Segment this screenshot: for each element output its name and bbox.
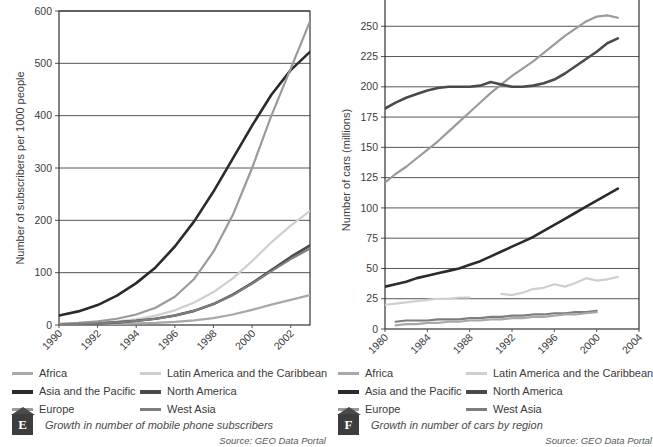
y-tick-label: 100 <box>360 202 378 214</box>
caption-e: E Growth in number of mobile phone subsc… <box>12 409 326 443</box>
series-line-africa <box>396 312 597 325</box>
series-line-asia-and-the-pacific <box>385 189 618 287</box>
legend-item[interactable]: Africa <box>12 366 140 381</box>
series-line-asia-and-the-pacific <box>59 52 310 316</box>
chart-e-y-axis-label: Number of subscribers per 1000 people <box>14 71 26 264</box>
legend-label: North America <box>167 385 237 398</box>
legend-color-swatch <box>466 372 487 375</box>
legend-item[interactable]: Asia and the Pacific <box>12 384 140 399</box>
x-tick-label: 1994 <box>117 327 142 352</box>
y-tick-label: 0 <box>372 323 378 335</box>
caption-f: F Growth in number of cars by region Sou… <box>338 409 652 443</box>
legend-label: Africa <box>365 367 393 380</box>
chart-e-plot: 0100200300400500600199019921994199619982… <box>0 0 326 360</box>
y-tick-label: 275 <box>360 0 378 2</box>
figure-f: 0255075100125150175200225250275198019841… <box>326 0 652 447</box>
y-tick-label: 75 <box>366 232 378 244</box>
legend-label: Africa <box>39 367 67 380</box>
x-tick-label: 1988 <box>450 331 475 356</box>
x-tick-label: 1980 <box>365 331 390 356</box>
legend-color-swatch <box>338 372 359 375</box>
chart-e-svg: 0100200300400500600199019921994199619982… <box>0 0 326 360</box>
legend-color-swatch <box>140 390 161 394</box>
source-text-f: Source: GEO Data Portal <box>545 435 652 446</box>
y-tick-label: 300 <box>34 162 52 174</box>
x-tick-label: 1992 <box>78 327 103 352</box>
series-line-north-america <box>385 38 618 108</box>
legend-color-swatch <box>12 372 33 375</box>
y-tick-label: 200 <box>34 214 52 226</box>
legend-label: Latin America and the Caribbean <box>167 367 327 380</box>
legend-label: Asia and the Pacific <box>39 385 136 398</box>
legend-color-swatch <box>466 390 487 394</box>
x-tick-label: 2000 <box>232 327 257 352</box>
source-text-e: Source: GEO Data Portal <box>219 435 326 446</box>
y-tick-label: 150 <box>360 141 378 153</box>
x-tick-label: 1984 <box>408 331 433 356</box>
y-tick-label: 175 <box>360 111 378 123</box>
legend-item[interactable]: Asia and the Pacific <box>338 384 466 399</box>
legend-item[interactable]: Africa <box>338 366 466 381</box>
y-tick-label: 500 <box>34 57 52 69</box>
series-line-europe <box>385 15 618 182</box>
caption-text-f: Growth in number of cars by region <box>371 419 543 431</box>
chart-f-plot: 0255075100125150175200225250275198019841… <box>326 0 652 360</box>
legend-color-swatch <box>140 372 161 375</box>
x-tick-label: 2000 <box>577 331 602 356</box>
legend-color-swatch <box>338 390 359 394</box>
legend-item[interactable]: North America <box>466 384 652 399</box>
y-tick-label: 0 <box>46 319 52 331</box>
y-tick-label: 50 <box>366 262 378 274</box>
caption-text-e: Growth in number of mobile phone subscri… <box>45 419 273 431</box>
series-line-latin-america-and-the-caribbean <box>59 211 310 325</box>
legend-item[interactable]: Latin America and the Caribbean <box>466 366 652 381</box>
series-line-europe <box>59 21 310 323</box>
legend-label: North America <box>493 385 563 398</box>
y-tick-label: 200 <box>360 80 378 92</box>
x-tick-label: 1996 <box>535 331 560 356</box>
figure-badge-e: E <box>12 414 33 435</box>
y-tick-label: 250 <box>360 20 378 32</box>
y-tick-label: 400 <box>34 109 52 121</box>
x-tick-label: 1998 <box>194 327 219 352</box>
legend-item[interactable]: North America <box>140 384 326 399</box>
legend-color-swatch <box>12 390 33 394</box>
x-tick-label: 1990 <box>39 327 64 352</box>
chart-f-y-axis-label: Number of cars (millions) <box>340 109 352 231</box>
y-tick-label: 100 <box>34 266 52 278</box>
legend-label: Latin America and the Caribbean <box>493 367 653 380</box>
chart-f-svg: 0255075100125150175200225250275198019841… <box>326 0 652 360</box>
legend-label: Asia and the Pacific <box>365 385 462 398</box>
series-line-latin-america-and-the-caribbean <box>385 277 618 305</box>
legend-item[interactable]: Latin America and the Caribbean <box>140 366 326 381</box>
x-tick-label: 1996 <box>155 327 180 352</box>
figure-e: 0100200300400500600199019921994199619982… <box>0 0 326 447</box>
y-tick-label: 600 <box>34 5 52 17</box>
x-tick-label: 1992 <box>492 331 517 356</box>
y-tick-label: 225 <box>360 50 378 62</box>
y-tick-label: 25 <box>366 292 378 304</box>
figure-badge-f: F <box>338 414 359 435</box>
y-tick-label: 125 <box>360 171 378 183</box>
x-tick-label: 2004 <box>619 331 644 356</box>
x-tick-label: 2002 <box>271 327 296 352</box>
